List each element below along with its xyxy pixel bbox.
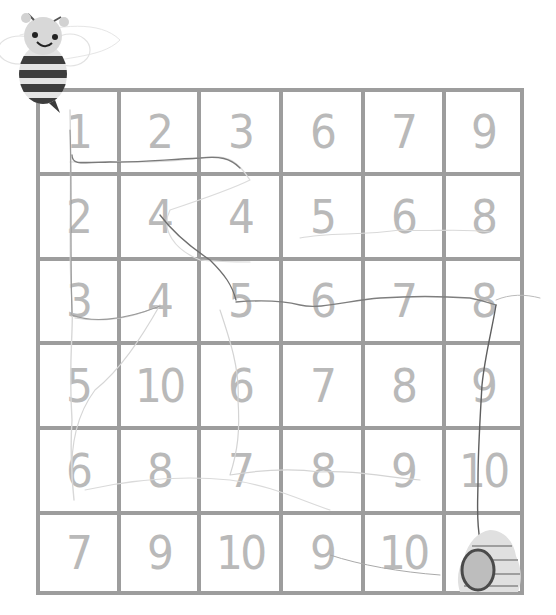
bee-icon <box>0 0 110 125</box>
beehive-icon <box>448 520 528 600</box>
maze-worksheet: 1 2 3 6 7 9 2 4 4 5 6 8 3 4 5 6 7 8 5 10… <box>0 0 556 615</box>
